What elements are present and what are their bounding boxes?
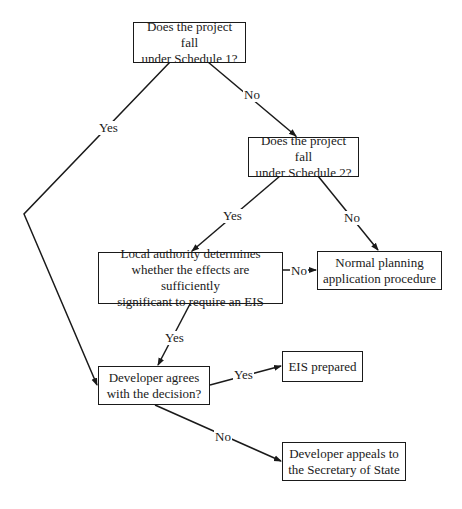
edge-label-s2-no: No (343, 211, 361, 225)
edge-label-s2-yes: Yes (222, 209, 243, 223)
edge-label-la-no: No (290, 264, 308, 278)
node-eis-prepared: EIS prepared (282, 351, 363, 382)
edge-s1-yes (24, 62, 170, 385)
node-normal-planning: Normal planning application procedure (317, 251, 442, 290)
edge-label-da-no: No (214, 430, 232, 444)
edge-label-s1-yes: Yes (98, 121, 119, 135)
node-schedule2: Does the project fall under Schedule 2? (248, 137, 359, 177)
node-local-authority: Local authority determines whether the e… (98, 252, 283, 304)
node-developer-agrees: Developer agrees with the decision? (98, 366, 210, 405)
node-developer-appeals: Developer appeals to the Secretary of St… (282, 442, 406, 481)
edge-label-s1-no: No (243, 88, 261, 102)
node-schedule1: Does the project fall under Schedule 1? (133, 22, 246, 63)
edge-label-la-yes: Yes (164, 331, 185, 345)
edge-label-da-yes: Yes (233, 368, 254, 382)
